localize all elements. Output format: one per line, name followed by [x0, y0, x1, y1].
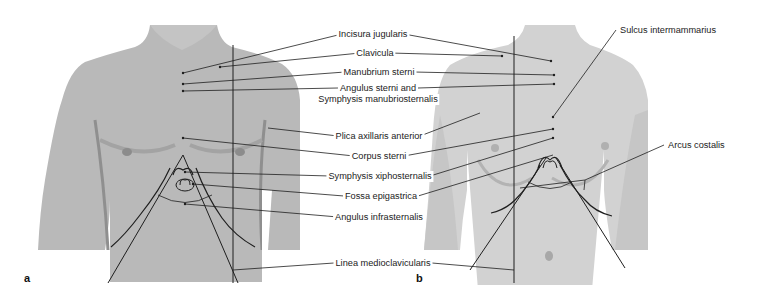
anatomy-figure: Incisura jugularis Clavicula Manubrium s…	[0, 0, 766, 300]
panel-label-a: a	[24, 272, 30, 284]
label-manubrium-sterni: Manubrium sterni	[342, 67, 417, 78]
label-sulcus-intermammarius: Sulcus intermammarius	[618, 25, 718, 36]
label-fossa-epigastrica: Fossa epigastrica	[343, 191, 419, 202]
label-angulus-infrasternalis: Angulus infrasternalis	[333, 212, 425, 223]
label-linea-medioclavicularis: Linea medioclavicularis	[334, 258, 433, 269]
label-plica-axillaris-anterior: Plica axillaris anterior	[334, 131, 425, 142]
label-clavicula: Clavicula	[354, 48, 395, 59]
female-torso	[424, 25, 648, 290]
label-symphysis-xiphosternalis: Symphysis xiphosternalis	[326, 171, 433, 182]
label-corpus-sterni: Corpus sterni	[350, 151, 409, 162]
torso-illustrations	[0, 0, 766, 300]
label-incisura-jugularis: Incisura jugularis	[337, 29, 410, 40]
male-torso	[38, 25, 300, 283]
label-angulus-sterni: Angulus sterni and	[338, 83, 418, 94]
label-symphysis-manubriosternalis: Symphysis manubriosternalis	[316, 94, 439, 105]
label-arcus-costalis: Arcus costalis	[666, 140, 727, 151]
panel-label-b: b	[416, 272, 423, 284]
